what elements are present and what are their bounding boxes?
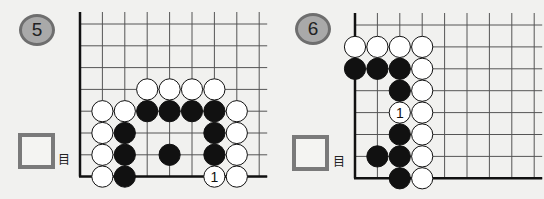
white-stone <box>412 58 433 79</box>
black-stone <box>389 58 410 79</box>
white-stone <box>412 80 433 101</box>
white-stone <box>412 36 433 57</box>
black-stone <box>367 58 388 79</box>
white-stone <box>389 36 410 57</box>
white-stone <box>412 146 433 167</box>
black-stone <box>389 80 410 101</box>
white-stone: 1 <box>389 102 410 123</box>
white-stone <box>412 124 433 145</box>
black-stone <box>389 146 410 167</box>
go-board-problem-6: 1 <box>0 0 544 199</box>
black-stone <box>344 58 365 79</box>
black-stone <box>389 168 410 189</box>
white-stone <box>412 168 433 189</box>
black-stone <box>389 124 410 145</box>
black-stone <box>367 146 388 167</box>
white-stone <box>412 102 433 123</box>
move-number-label: 1 <box>396 105 404 121</box>
white-stone <box>344 36 365 57</box>
white-stone <box>367 36 388 57</box>
